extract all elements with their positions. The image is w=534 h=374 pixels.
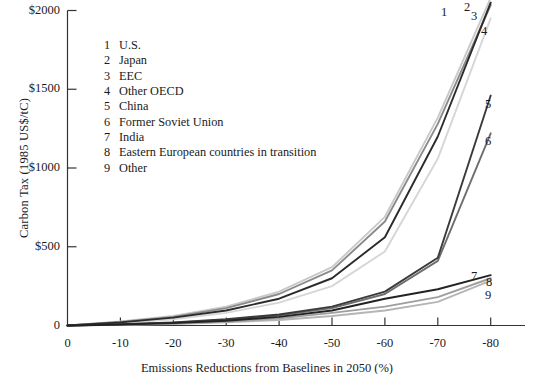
curve-end-label-3: 3 <box>471 9 477 24</box>
legend-item-label: Former Soviet Union <box>119 115 224 130</box>
legend-item-label: Other OECD <box>119 84 184 99</box>
curve-end-label-4: 4 <box>481 24 487 39</box>
legend-item-number: 9 <box>104 161 119 176</box>
curve-end-label-2: 2 <box>464 0 470 15</box>
x-tick-label: 0 <box>48 336 88 351</box>
legend-item-number: 8 <box>104 145 119 160</box>
y-tick-label: $1000 <box>2 160 60 175</box>
legend-item: 1U.S. <box>104 38 316 53</box>
y-tick-label: $1500 <box>2 81 60 96</box>
legend-item-label: EEC <box>119 69 142 84</box>
x-tick-label: -80 <box>471 336 511 351</box>
curve-end-label-5: 5 <box>485 97 491 112</box>
legend-item-number: 6 <box>104 115 119 130</box>
x-tick-label: -60 <box>365 336 405 351</box>
legend-item: 3EEC <box>104 69 316 84</box>
legend-item-number: 1 <box>104 38 119 53</box>
curve-end-label-7: 7 <box>471 269 477 284</box>
curve-end-label-9: 9 <box>485 288 491 303</box>
y-tick-label: 0 <box>2 318 60 333</box>
x-tick-label: -10 <box>100 336 140 351</box>
legend-item: 8Eastern European countries in transitio… <box>104 145 316 160</box>
legend-item-label: Other <box>119 161 147 176</box>
x-tick-label: -70 <box>418 336 458 351</box>
legend-item-number: 2 <box>104 53 119 68</box>
legend-item: 6Former Soviet Union <box>104 115 316 130</box>
x-tick-label: -50 <box>312 336 352 351</box>
y-tick-label: $500 <box>2 239 60 254</box>
x-tick-label: -40 <box>259 336 299 351</box>
curve-end-label-1: 1 <box>441 5 447 20</box>
legend-item: 7India <box>104 130 316 145</box>
carbon-tax-chart: Carbon Tax (1985 US$/tC) 1U.S.2Japan3EEC… <box>0 0 534 374</box>
legend-item: 2Japan <box>104 53 316 68</box>
legend-item-label: China <box>119 99 148 114</box>
legend-item-number: 3 <box>104 69 119 84</box>
x-axis-title: Emissions Reductions from Baselines in 2… <box>141 361 393 374</box>
curve-end-label-6: 6 <box>485 134 491 149</box>
x-tick-label: -20 <box>153 336 193 351</box>
legend-item: 4Other OECD <box>104 84 316 99</box>
legend-item-label: U.S. <box>119 38 141 53</box>
legend-item-number: 5 <box>104 99 119 114</box>
legend-item-label: Eastern European countries in transition <box>119 145 316 160</box>
legend-item-number: 7 <box>104 130 119 145</box>
legend-item: 9Other <box>104 161 316 176</box>
legend: 1U.S.2Japan3EEC4Other OECD5China6Former … <box>104 38 316 176</box>
legend-item-label: India <box>119 130 144 145</box>
legend-item-label: Japan <box>119 53 147 68</box>
legend-item-number: 4 <box>104 84 119 99</box>
y-tick-label: $2000 <box>2 3 60 18</box>
legend-item: 5China <box>104 99 316 114</box>
x-tick-label: -30 <box>206 336 246 351</box>
